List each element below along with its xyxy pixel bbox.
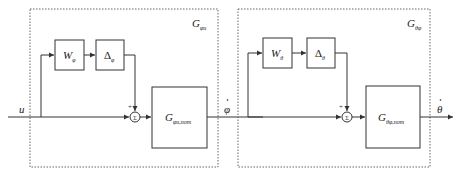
subsystem-label-g-theta-phi: Gθφ xyxy=(407,17,422,31)
subsystem-g-theta-phi: Gθφ Wθ Δθ Σ + Gθφ,nom xyxy=(238,9,453,167)
sum-symbol-left: Σ xyxy=(133,115,137,121)
input-label-u: u xyxy=(19,103,25,115)
intermediate-signal-phi-dot: φ xyxy=(224,99,230,115)
sum-sign-top-right: + xyxy=(339,103,343,111)
sum-sign-top-left: + xyxy=(128,103,132,111)
intermediate-label-phi: φ xyxy=(224,103,230,115)
nominal-block-g-phi-u-nom xyxy=(152,87,207,148)
subsystem-label-g-phi-u: Gφu xyxy=(192,17,206,31)
subsystem-g-phi-u: Gφu Wφ Δφ Σ + Gφu,nom xyxy=(8,9,263,167)
dot-accent-phi xyxy=(227,99,229,101)
output-signal-theta-dot: θ xyxy=(437,99,443,115)
output-label-theta: θ xyxy=(437,103,443,115)
nominal-block-g-theta-phi-nom xyxy=(366,86,420,148)
block-diagram: Gφu Wφ Δφ Σ + Gφu,nom u xyxy=(0,0,460,176)
dot-accent-theta xyxy=(440,99,442,101)
sum-symbol-right: Σ xyxy=(345,115,349,121)
